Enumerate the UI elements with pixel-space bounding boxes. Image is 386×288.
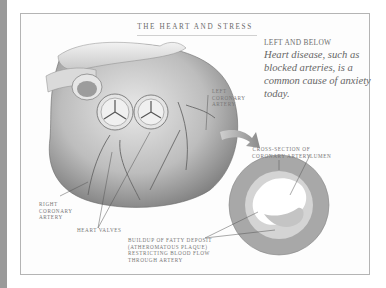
label-cross-section: CROSS-SECTION OF CORONARY ARTERY	[252, 146, 311, 159]
heart-valve-left	[97, 94, 133, 130]
heart-valve-right	[134, 95, 168, 129]
label-lumen: LUMEN	[310, 153, 331, 160]
label-plaque-buildup: BUILDUP OF FATTY DEPOSIT (ATHEROMATOUS P…	[128, 237, 212, 263]
label-heart-valves: HEART VALVES	[77, 227, 122, 234]
label-right-coronary-artery: RIGHT CORONARY ARTERY	[39, 201, 73, 221]
heart-drawing	[46, 42, 238, 207]
label-left-coronary-artery: LEFT CORONARY ARTERY	[212, 88, 246, 108]
